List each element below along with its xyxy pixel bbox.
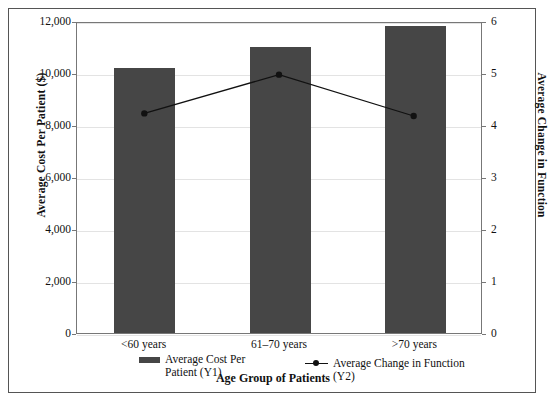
right-axis-tick-label: 6 (491, 16, 521, 28)
line-marker (410, 113, 416, 119)
x-axis-tick-label: 61–70 years (219, 338, 339, 350)
left-axis-title: Average Cost Per Patient ($) (35, 20, 47, 270)
right-axis-title: Average Change in Function (536, 20, 548, 270)
plot-area (76, 22, 482, 334)
line-path (144, 75, 413, 116)
x-axis-tick-label: >70 years (354, 338, 474, 350)
right-axis-tick-label: 1 (491, 276, 521, 288)
line-marker (141, 110, 147, 116)
figure-frame: 02,0004,0006,0008,00010,00012,000 Averag… (8, 8, 536, 393)
line-series (77, 23, 481, 333)
legend-bar-swatch-icon (139, 357, 160, 363)
x-axis-title: Age Group of Patients (9, 371, 537, 386)
right-axis-tick-mark (482, 126, 486, 127)
right-axis-tick-mark (482, 178, 486, 179)
right-axis-tick-label: 5 (491, 68, 521, 80)
right-axis-tick-label: 3 (491, 172, 521, 184)
left-axis-tick-label: 2,000 (13, 276, 71, 288)
right-axis-tick-mark (482, 334, 486, 335)
gridline (77, 335, 481, 336)
right-axis-tick-mark (482, 74, 486, 75)
line-marker (276, 71, 282, 77)
right-axis-ticks: 0123456 (482, 22, 522, 334)
left-axis-tick-mark (72, 334, 76, 335)
legend-line-marker-icon (305, 359, 328, 368)
right-axis-tick-mark (482, 230, 486, 231)
x-axis-tick-label: <60 years (84, 338, 204, 350)
left-axis-tick-label: 0 (13, 328, 71, 340)
right-axis-tick-mark (482, 282, 486, 283)
right-axis-tick-mark (482, 22, 486, 23)
right-axis-tick-label: 2 (491, 224, 521, 236)
right-axis-tick-label: 4 (491, 120, 521, 132)
right-axis-tick-label: 0 (491, 328, 521, 340)
